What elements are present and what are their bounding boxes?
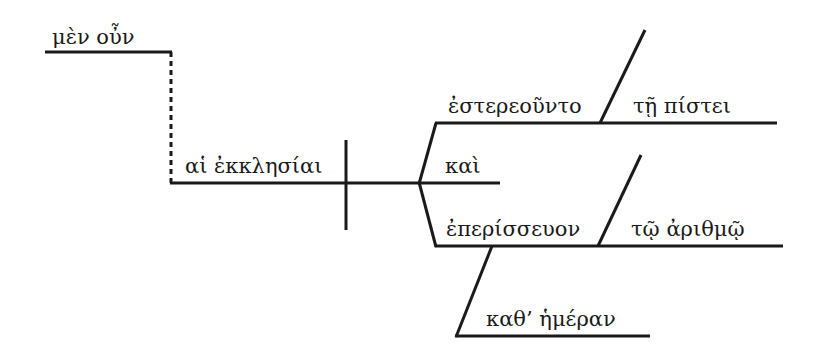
verb2-word: ἐπερίσσευον [446,217,580,241]
modifier2-word: τῷ ἀριθμῷ [631,217,745,241]
modifier1-word: τῇ πίστει [633,94,731,118]
upper-fork-line [419,123,436,184]
conjunction-word: καὶ [445,154,481,178]
particle-word: μὲν οὖν [52,22,135,49]
verb1-word: ἐστερεοῦντο [448,94,582,118]
lower-fork-line [419,182,436,247]
modifier3-word: καθ’ ἡμέραν [486,307,616,331]
sentence-diagram: μὲν οὖν αἱ ἐκκλησίαι καὶ ἐστερεοῦντο τῇ … [0,0,822,358]
subject-word: αἱ ἐκκλησίαι [185,154,322,178]
